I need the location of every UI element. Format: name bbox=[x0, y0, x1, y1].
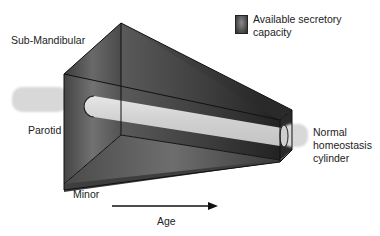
label-parotid: Parotid bbox=[28, 124, 61, 136]
legend-label-line2: capacity bbox=[253, 26, 292, 38]
age-arrow-head bbox=[208, 202, 218, 210]
cylinder-left-stub bbox=[12, 87, 68, 112]
legend-swatch bbox=[235, 15, 248, 34]
label-cylinder-line1: Normal bbox=[313, 126, 347, 138]
cylinder-right-cap bbox=[280, 125, 288, 147]
label-cylinder-line3: cylinder bbox=[313, 152, 349, 164]
label-sub-mandibular: Sub-Mandibular bbox=[11, 34, 85, 46]
label-age: Age bbox=[157, 215, 176, 227]
label-minor: Minor bbox=[73, 188, 99, 200]
legend-label-line1: Available secretory bbox=[253, 13, 342, 25]
label-cylinder-line2: homeostasis bbox=[313, 139, 372, 151]
